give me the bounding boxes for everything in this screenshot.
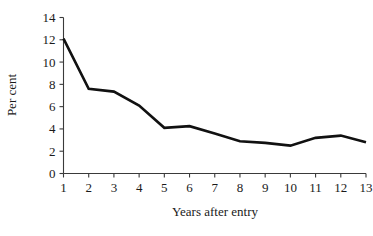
x-tick-label: 2	[85, 180, 92, 195]
x-tick-label: 6	[186, 180, 193, 195]
x-tick-label: 3	[111, 180, 118, 195]
chart-figure: 02468101214 12345678910111213 Per cent Y…	[0, 0, 373, 236]
x-tick-label: 10	[284, 180, 297, 195]
data-series-group	[64, 39, 367, 146]
x-tick-label: 11	[309, 180, 322, 195]
x-axis-tick-marks	[64, 174, 367, 178]
x-tick-label: 8	[237, 180, 244, 195]
x-axis-tick-labels: 12345678910111213	[60, 180, 372, 195]
y-tick-label: 14	[43, 10, 57, 25]
x-tick-label: 13	[360, 180, 373, 195]
y-tick-label: 0	[49, 166, 56, 181]
y-tick-label: 2	[49, 144, 56, 159]
x-tick-label: 1	[60, 180, 67, 195]
y-axis-tick-labels: 02468101214	[43, 10, 57, 181]
y-axis-tick-marks	[60, 18, 64, 174]
x-tick-label: 5	[161, 180, 168, 195]
y-axis: 02468101214	[43, 10, 64, 181]
y-axis-title: Per cent	[4, 73, 19, 116]
x-axis: 12345678910111213	[60, 174, 372, 195]
x-tick-label: 9	[262, 180, 269, 195]
x-axis-title: Years after entry	[172, 204, 259, 219]
x-tick-label: 7	[212, 180, 219, 195]
x-tick-label: 4	[136, 180, 143, 195]
y-tick-label: 12	[43, 32, 56, 47]
y-tick-label: 8	[49, 77, 56, 92]
series-line-per-cent	[64, 39, 367, 146]
y-tick-label: 4	[49, 121, 56, 136]
x-tick-label: 12	[334, 180, 347, 195]
line-chart-canvas: 02468101214 12345678910111213 Per cent Y…	[0, 0, 373, 236]
y-tick-label: 6	[49, 99, 56, 114]
y-tick-label: 10	[43, 55, 56, 70]
